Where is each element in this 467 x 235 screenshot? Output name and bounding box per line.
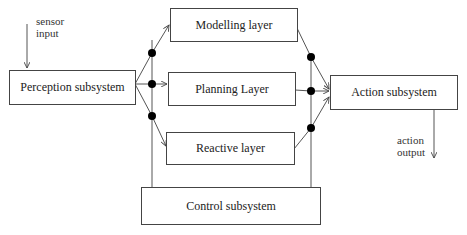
- sensor-input-line2: input: [36, 27, 64, 39]
- modelling-layer-box: Modelling layer: [170, 8, 298, 42]
- right-junction-mid: [307, 87, 315, 95]
- action-output-line1: action: [397, 134, 425, 146]
- reactive-layer-label: Reactive layer: [196, 141, 265, 156]
- left-junction-top: [148, 49, 156, 57]
- control-subsystem-label: Control subsystem: [186, 199, 276, 214]
- modelling-layer-label: Modelling layer: [196, 18, 273, 33]
- left-junction-mid: [148, 80, 156, 88]
- planning-layer-label: Planning Layer: [195, 82, 269, 97]
- right-junction-top: [307, 53, 315, 61]
- control-subsystem-box: Control subsystem: [141, 187, 321, 225]
- action-output-label: action output: [397, 134, 425, 158]
- reactive-layer-box: Reactive layer: [166, 132, 295, 165]
- sensor-input-line1: sensor: [36, 15, 64, 27]
- perception-subsystem-box: Perception subsystem: [9, 70, 136, 105]
- action-output-line2: output: [397, 146, 425, 158]
- sensor-input-label: sensor input: [36, 15, 64, 39]
- perception-subsystem-label: Perception subsystem: [20, 80, 124, 95]
- planning-layer-box: Planning Layer: [168, 72, 296, 106]
- action-subsystem-label: Action subsystem: [351, 85, 437, 100]
- right-junction-bottom: [307, 124, 315, 132]
- left-junction-bottom: [148, 112, 156, 120]
- action-subsystem-box: Action subsystem: [330, 75, 458, 110]
